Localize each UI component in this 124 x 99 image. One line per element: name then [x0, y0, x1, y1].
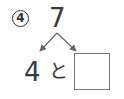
connector-text: と: [49, 60, 68, 82]
known-part-number: 4: [24, 58, 41, 86]
answer-box[interactable]: [74, 53, 110, 90]
